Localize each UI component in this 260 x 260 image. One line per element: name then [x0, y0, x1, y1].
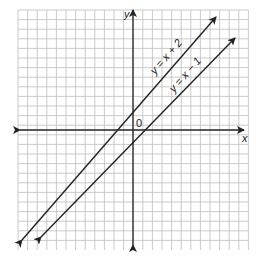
line-y-equals-x-plus-2	[22, 17, 216, 240]
origin-label: 0	[136, 117, 142, 129]
x-axis-label: x	[241, 132, 248, 144]
coordinate-plane: x y 0 y = x + 2 y = x − 1	[0, 0, 260, 260]
